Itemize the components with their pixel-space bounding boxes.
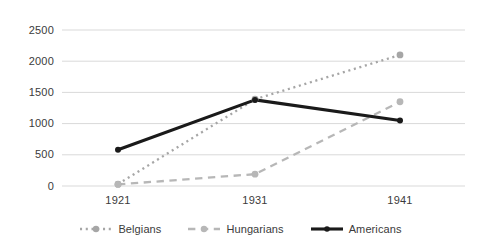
line-chart: 05001000150020002500 192119311941 Belgia… [0,0,481,247]
chart-plot-area [0,0,481,247]
legend-entry-hungarians[interactable]: Hungarians [187,223,283,235]
data-point-hungarians-1931 [252,171,259,178]
legend-entry-americans[interactable]: Americans [310,223,402,235]
x-tick-label: 1921 [88,195,148,206]
x-tick-label: 1931 [225,195,285,206]
data-point-americans-1941 [397,117,403,123]
y-tick-label: 0 [6,181,54,192]
y-tick-label: 1000 [6,118,54,129]
series-markers [115,52,404,188]
x-tick-label: 1941 [370,195,430,206]
data-point-belgians-1941 [397,52,404,59]
chart-legend: BelgiansHungariansAmericans [0,219,481,239]
y-tick-label: 1500 [6,87,54,98]
legend-swatch-americans-icon [310,223,344,235]
gridlines [62,30,465,186]
y-tick-label: 500 [6,149,54,160]
y-tick-label: 2000 [6,56,54,67]
data-point-americans-1931 [252,97,258,103]
legend-swatch-hungarians-icon [187,223,221,235]
series-line-americans [118,100,400,150]
legend-label: Hungarians [226,223,283,235]
series-lines [118,55,400,184]
data-point-hungarians-1941 [397,98,404,105]
legend-label: Americans [349,223,402,235]
legend-label: Belgians [118,223,161,235]
series-line-belgians [118,55,400,184]
data-point-americans-1921 [115,147,121,153]
legend-swatch-belgians-icon [79,223,113,235]
legend-entry-belgians[interactable]: Belgians [79,223,161,235]
data-point-hungarians-1921 [115,181,122,188]
y-tick-label: 2500 [6,25,54,36]
